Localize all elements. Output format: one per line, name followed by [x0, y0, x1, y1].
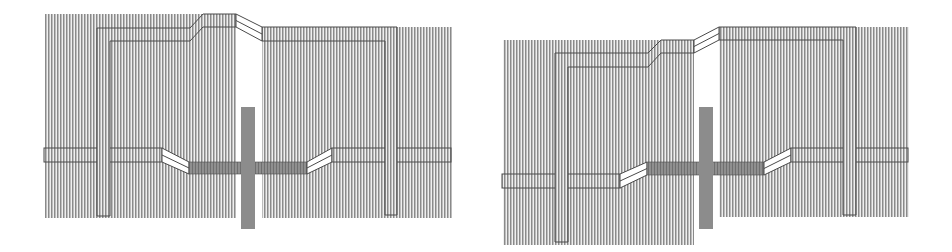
layout-panel-right [476, 0, 952, 252]
hatch-region [503, 40, 694, 245]
diagram-canvas [0, 0, 952, 252]
layout-panel-left [0, 0, 476, 252]
layout-right-svg [476, 0, 952, 252]
hatch-region [262, 27, 452, 218]
hatch-region [45, 14, 236, 218]
layout-left-svg [0, 0, 476, 252]
gate-cross [241, 107, 255, 229]
hatch-region [719, 27, 909, 217]
gate-cross [699, 107, 713, 229]
